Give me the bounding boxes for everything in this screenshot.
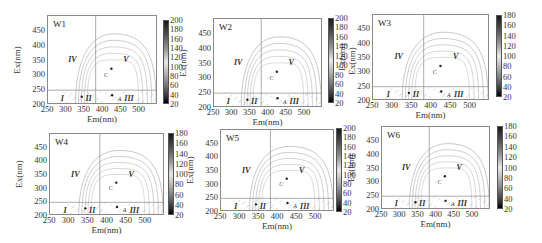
peak-label-a: A: [293, 203, 297, 209]
y-tick-label: 400: [25, 156, 47, 164]
colorbar-tick-label: 180: [175, 129, 188, 137]
plot-area: W2IVVIIIIIICA: [213, 18, 322, 107]
x-axis-label: Em(nm): [401, 110, 461, 120]
peak-label-c: C: [438, 179, 442, 185]
region-label-iv: IV: [242, 166, 250, 175]
region-label-iii: III: [124, 94, 133, 103]
colorbar-tick-label: 20: [170, 100, 179, 108]
region-label-v: V: [123, 55, 128, 64]
contour-plot: [214, 19, 322, 107]
peak-label-c: C: [433, 69, 437, 75]
colorbar: [163, 20, 169, 104]
colorbar-tick-label: 180: [335, 23, 348, 31]
colorbar-tick-label: 120: [503, 42, 516, 50]
peak-label-a: A: [118, 96, 122, 102]
colorbar: [336, 128, 342, 212]
region-label-iv: IV: [402, 163, 410, 172]
y-tick-label: 350: [196, 166, 218, 174]
colorbar-tick-label: 140: [504, 143, 517, 151]
region-label-v: V: [129, 170, 134, 179]
colorbar: [168, 133, 174, 215]
y-axis-label: Ex(nm): [14, 149, 24, 199]
y-tick-label: 250: [196, 193, 218, 201]
region-label-i: I: [395, 199, 398, 208]
colorbar-tick-label: 40: [343, 199, 352, 207]
x-axis-label: Em(nm): [77, 225, 137, 235]
colorbar-tick-label: 40: [335, 90, 344, 98]
y-tick-label: 450: [189, 29, 211, 37]
colorbar-tick-label: 40: [175, 201, 184, 209]
peak-label-a: A: [123, 207, 127, 213]
x-axis-label: Em(nm): [247, 221, 307, 231]
colorbar-tick-label: 180: [503, 11, 516, 19]
y-tick-label: 350: [23, 56, 45, 64]
y-tick-label: 250: [25, 197, 47, 205]
colorbar-tick-label: 100: [503, 52, 516, 60]
colorbar: [328, 18, 334, 103]
colorbar-tick-label: 20: [335, 99, 344, 107]
peak-label-a: A: [447, 92, 451, 98]
colorbar-tick-label: 20: [503, 93, 512, 101]
colorbar: [496, 15, 502, 97]
colorbar-tick-label: 60: [503, 73, 512, 81]
x-tick-label: 500: [304, 212, 326, 220]
colorbar-tick-label: 80: [175, 180, 184, 188]
y-tick-label: 450: [357, 136, 379, 144]
region-label-v: V: [299, 166, 304, 175]
colorbar-tick-label: 100: [504, 164, 517, 172]
region-label-ii: II: [419, 199, 425, 208]
plot-area: W3IVVIIIIIICA: [372, 14, 489, 100]
colorbar-tick-label: 200: [170, 16, 183, 24]
y-axis-label: Ex(nm): [12, 35, 22, 85]
colorbar-tick-label: 60: [504, 184, 513, 192]
y-tick-label: 450: [23, 26, 45, 34]
y-axis-label: Ex(nm): [185, 145, 195, 195]
peak-label-c: C: [109, 185, 113, 191]
panel-title: W5: [226, 133, 239, 143]
y-tick-label: 400: [357, 150, 379, 158]
contour-plot: [48, 16, 157, 104]
peak-label-a: A: [451, 201, 455, 207]
region-label-iv: IV: [71, 170, 79, 179]
colorbar-tick-label: 20: [343, 208, 352, 216]
y-tick-label: 350: [357, 164, 379, 172]
y-tick-label: 350: [348, 53, 370, 61]
peak-label-c: C: [279, 181, 283, 187]
y-tick-label: 300: [25, 184, 47, 192]
y-tick-label: 400: [196, 152, 218, 160]
region-label-iv: IV: [234, 58, 242, 67]
y-tick-label: 350: [25, 170, 47, 178]
y-axis-label: Ex(nm): [178, 38, 188, 88]
plot-area: W1IVVIIIIIICA: [47, 15, 157, 104]
colorbar-tick-label: 140: [503, 32, 516, 40]
region-label-ii: II: [251, 97, 257, 106]
colorbar-tick-label: 40: [503, 83, 512, 91]
y-tick-label: 250: [189, 88, 211, 96]
colorbar-tick-label: 40: [170, 91, 179, 99]
colorbar-tick-label: 40: [504, 195, 513, 203]
region-label-ii: II: [89, 206, 95, 215]
panel-title: W1: [53, 19, 66, 29]
region-label-iii: III: [300, 202, 309, 211]
region-label-i: I: [387, 90, 390, 99]
peak-label-c: C: [104, 72, 108, 78]
y-tick-label: 250: [348, 82, 370, 90]
colorbar-tick-label: 160: [503, 21, 516, 29]
y-tick-label: 450: [196, 139, 218, 147]
colorbar-tick-label: 180: [343, 133, 356, 141]
x-tick-label: 500: [128, 105, 150, 113]
peak-label-a: A: [283, 99, 287, 105]
region-label-ii: II: [260, 202, 266, 211]
panel-title: W2: [219, 22, 232, 32]
colorbar-tick-label: 160: [504, 132, 517, 140]
panel-title: W3: [378, 18, 391, 28]
y-tick-label: 350: [189, 59, 211, 67]
colorbar-tick-label: 180: [504, 122, 517, 130]
region-label-v: V: [288, 58, 293, 67]
region-label-iii: III: [290, 97, 299, 106]
y-tick-label: 300: [348, 67, 370, 75]
y-tick-label: 400: [23, 41, 45, 49]
colorbar-tick-label: 120: [504, 153, 517, 161]
colorbar-tick-label: 80: [504, 174, 513, 182]
plot-area: W4IVVIIIIIICA: [49, 133, 164, 215]
